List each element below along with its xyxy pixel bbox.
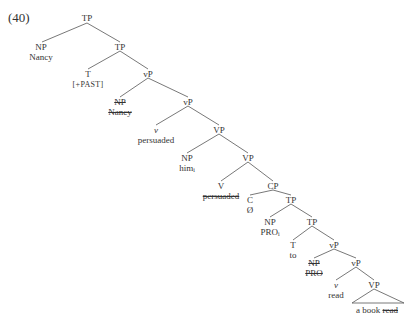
word-null-complementizer: Ø bbox=[247, 205, 254, 215]
node-vp: VP bbox=[368, 280, 380, 290]
node-np-trace: NP bbox=[308, 258, 320, 268]
node-np: NP bbox=[264, 217, 276, 227]
node-t: T bbox=[85, 69, 91, 79]
word-read: read bbox=[328, 290, 344, 300]
word-to: to bbox=[289, 250, 296, 260]
node-tp: TP bbox=[82, 13, 93, 23]
node-vp: VP bbox=[242, 153, 254, 163]
word-nancy-trace: Nancy bbox=[108, 107, 132, 117]
word-persuaded: persuaded bbox=[138, 135, 174, 145]
word-him: himi bbox=[179, 163, 195, 175]
word-pro-trace: PRO bbox=[305, 268, 323, 278]
node-tp: TP bbox=[307, 217, 318, 227]
node-little-vp: vP bbox=[329, 240, 339, 250]
node-cp: CP bbox=[267, 181, 278, 191]
node-little-v: v bbox=[154, 125, 158, 135]
node-vp: VP bbox=[213, 125, 225, 135]
node-little-vp: vP bbox=[351, 258, 361, 268]
node-little-vp: vP bbox=[183, 97, 193, 107]
node-tp: TP bbox=[115, 42, 126, 52]
word-pro: PROi bbox=[260, 227, 279, 239]
feature-past: [+PAST] bbox=[73, 80, 104, 90]
word-nancy: Nancy bbox=[29, 52, 53, 62]
node-np: NP bbox=[35, 42, 47, 52]
node-np: NP bbox=[181, 153, 193, 163]
tree-branches bbox=[0, 0, 409, 322]
node-little-vp: vP bbox=[143, 69, 153, 79]
node-t: T bbox=[290, 240, 296, 250]
node-v: V bbox=[218, 181, 225, 191]
node-np-trace: NP bbox=[114, 97, 126, 107]
word-persuaded-trace: persuaded bbox=[203, 191, 239, 201]
node-little-v: v bbox=[334, 280, 338, 290]
node-c: C bbox=[247, 195, 253, 205]
triangle-terminal: a book read bbox=[356, 305, 398, 315]
node-tp: TP bbox=[286, 195, 297, 205]
